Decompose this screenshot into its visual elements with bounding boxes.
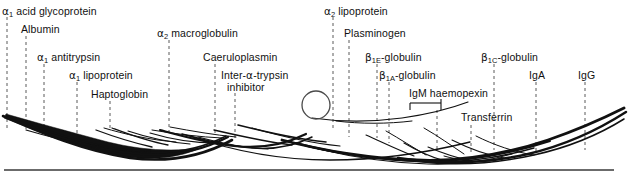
label-a2-lipoprotein: α2 lipoprotein: [324, 6, 388, 20]
label-transferrin: Transferrin: [461, 112, 512, 124]
precipitin-arc-group: [3, 102, 626, 164]
label-b1e-globulin: β1E-globulin: [365, 52, 422, 66]
label-igg: IgG: [578, 70, 595, 82]
label-iga: IgA: [529, 70, 545, 82]
label-igm-haemopexin: IgM haemopexin: [409, 88, 488, 100]
label-b1c-globulin: β1C-globulin: [481, 52, 538, 66]
label-inter-a-trypsin-inhibitor: Inter-α-trypsin inhibitor: [221, 70, 307, 93]
sample-well-circle: [302, 91, 330, 119]
label-plasminogen: Plasminogen: [344, 28, 406, 40]
igm-haemopexin-bracket: [410, 99, 441, 110]
label-a1-lipoprotein: α1 lipoprotein: [69, 70, 133, 84]
arc-from-well: [312, 102, 468, 121]
arc-tick-m2: [386, 131, 426, 155]
label-b1a-globulin: β1A-globulin: [379, 70, 436, 84]
label-a1-antitrypsin: α1 antitrypsin: [37, 52, 100, 66]
label-albumin: Albumin: [21, 24, 60, 36]
label-caeruloplasmin: Caeruloplasmin: [203, 52, 277, 64]
label-haptoglobin: Haptoglobin: [91, 89, 148, 101]
label-a1-acid-glycoprotein: α1 acid glycoprotein: [2, 6, 97, 20]
label-a2-macroglobulin: α2 macroglobulin: [157, 28, 238, 42]
arc-tick-m1: [366, 135, 414, 156]
immunoelectrophoresis-figure: α1 acid glycoprotein Albumin α1 antitryp…: [0, 0, 629, 183]
